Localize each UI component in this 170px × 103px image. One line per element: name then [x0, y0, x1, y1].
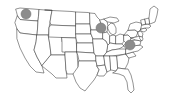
- map-marker-virginia[interactable]: [125, 40, 135, 50]
- state-indiana: [110, 35, 116, 44]
- state-nebraska: [76, 34, 93, 43]
- map-marker-wisconsin[interactable]: [96, 23, 106, 33]
- state-kansas: [77, 43, 94, 53]
- state-alabama: [110, 56, 118, 71]
- state-wyoming: [49, 25, 76, 38]
- map-marker-washington[interactable]: [21, 9, 31, 19]
- state-ohio: [116, 34, 124, 44]
- state-michigan-lower: [108, 23, 116, 35]
- state-south-dakota: [76, 24, 91, 34]
- state-new-jersey: [138, 31, 143, 37]
- state-colorado: [62, 38, 77, 53]
- state-outlines-group: [15, 6, 158, 93]
- us-map-svg: [0, 0, 170, 103]
- state-maine: [149, 6, 158, 24]
- state-arkansas: [96, 56, 105, 66]
- state-north-dakota: [76, 12, 90, 24]
- us-map-figure: [0, 0, 170, 103]
- state-oklahoma: [77, 52, 96, 61]
- state-florida: [113, 68, 134, 93]
- state-georgia: [117, 54, 129, 69]
